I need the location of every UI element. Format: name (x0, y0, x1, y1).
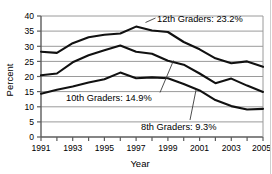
ytick-label-15: 15 (24, 87, 34, 97)
xtick-label-1999: 1999 (158, 143, 177, 153)
xtick-label-1997: 1997 (127, 143, 146, 153)
line-chart: 40 35 30 25 20 15 10 5 0 1991 1993 1995 … (0, 0, 272, 174)
xtick-label-1995: 1995 (95, 143, 114, 153)
ytick-label-0: 0 (29, 132, 34, 142)
xtick-label-2005: 2005 (252, 143, 271, 153)
xtick-label-2003: 2003 (222, 143, 241, 153)
figure-container: 40 35 30 25 20 15 10 5 0 1991 1993 1995 … (0, 0, 272, 174)
xtick-label-2001: 2001 (190, 143, 209, 153)
ytick-label-40: 40 (24, 11, 34, 21)
annotation-grade-12: 12th Graders: 23.2% (157, 14, 243, 24)
ytick-label-30: 30 (24, 42, 34, 52)
y-axis-title: Percent (4, 63, 15, 96)
ytick-label-5: 5 (29, 117, 34, 127)
annotation-grade-8: 8th Graders: 9.3% (141, 122, 216, 132)
xtick-label-1993: 1993 (63, 143, 82, 153)
ytick-label-20: 20 (24, 72, 34, 82)
ytick-label-35: 35 (24, 26, 34, 36)
x-axis-title: Year (130, 158, 149, 169)
annotation-grade-10: 10th Graders: 14.9% (66, 93, 152, 103)
ytick-label-25: 25 (24, 57, 34, 67)
page-right-rule (270, 0, 271, 174)
ytick-label-10: 10 (24, 102, 34, 112)
xtick-label-1991: 1991 (31, 143, 50, 153)
